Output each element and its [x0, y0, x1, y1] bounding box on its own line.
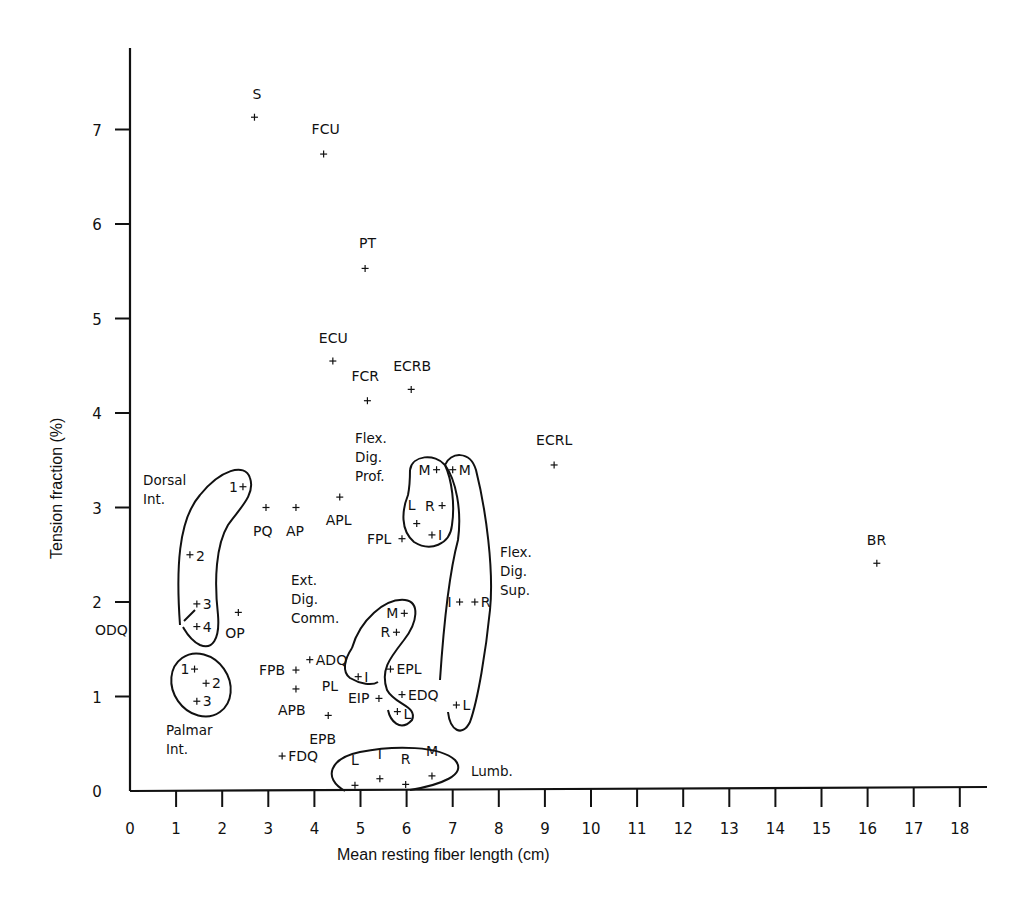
- group-label: Dig.: [500, 563, 527, 579]
- data-point: ODQ: [95, 622, 128, 638]
- group-point-label: R: [380, 624, 390, 640]
- group-label: Ext.: [291, 572, 317, 588]
- x-tick-label: 11: [628, 820, 647, 838]
- data-point-label: EDQ: [408, 687, 439, 703]
- data-point-marker: [292, 685, 299, 692]
- group-label: Sup.: [500, 582, 530, 598]
- data-point-label: ECU: [319, 330, 348, 346]
- data-group: MLRIFlex.Dig.Prof.: [355, 430, 446, 543]
- data-point-label: OP: [225, 625, 244, 641]
- group-point-label: 2: [196, 548, 205, 564]
- data-point: PL: [322, 678, 338, 694]
- group-label: Prof.: [355, 468, 384, 484]
- x-tick-label: 8: [494, 820, 504, 838]
- data-point-marker: [193, 600, 200, 607]
- data-point: PQ: [253, 504, 272, 539]
- data-point-label: ODQ: [95, 622, 128, 638]
- group-point-label: L: [403, 706, 411, 722]
- y-tick-label: 1: [92, 689, 102, 707]
- data-point-marker: [329, 358, 336, 365]
- group-point-label: 1: [181, 661, 190, 677]
- data-point-label: ECRB: [393, 358, 431, 374]
- x-tick-label: 13: [720, 820, 739, 838]
- y-tick-label: 5: [92, 311, 102, 329]
- data-point-marker: [376, 775, 383, 782]
- data-point-label: APL: [326, 512, 352, 528]
- data-point: S: [251, 86, 262, 121]
- data-point-label: EPL: [396, 661, 421, 677]
- data-point-marker: [375, 695, 382, 702]
- group-point-label: M: [419, 462, 431, 478]
- group-label: Dig.: [355, 449, 382, 465]
- group-point-label: 2: [212, 675, 221, 691]
- data-point: EDQ: [398, 687, 438, 703]
- data-point-label: PT: [359, 235, 376, 251]
- y-tick-label: 0: [92, 783, 102, 801]
- data-point-marker: [873, 560, 880, 567]
- data-point-label: ADQ: [316, 652, 347, 668]
- data-point: EPL: [387, 661, 422, 677]
- palmar-int-enclosure: [159, 642, 243, 728]
- data-points: SFCUPTECUFCRECRBECRLBRAPLPQAPFPLOPFPBADQ…: [95, 86, 886, 764]
- data-point: ECRL: [536, 432, 572, 469]
- data-point-marker: [262, 504, 269, 511]
- data-point-marker: [355, 673, 362, 680]
- data-point-label: FPL: [367, 531, 391, 547]
- data-point-label: APB: [278, 702, 306, 718]
- data-point-marker: [336, 494, 343, 501]
- x-tick-label: 2: [217, 820, 227, 838]
- data-point-marker: [428, 772, 435, 779]
- group-point-label: I: [364, 669, 368, 685]
- data-point: ADQ: [306, 652, 347, 668]
- group-point-label: 3: [203, 596, 212, 612]
- data-point: AP: [286, 504, 304, 539]
- data-point: EIP: [348, 690, 383, 706]
- data-point: BR: [867, 532, 887, 567]
- data-point: OP: [225, 609, 244, 642]
- x-tick-label: 15: [812, 820, 831, 838]
- data-group: 123PalmarInt.: [166, 661, 221, 757]
- data-point-marker: [320, 151, 327, 158]
- data-point: APB: [278, 685, 306, 718]
- data-point-marker: [408, 386, 415, 393]
- data-point-marker: [203, 680, 210, 687]
- data-point: EPB: [309, 712, 336, 748]
- data-point-label: AP: [286, 523, 304, 539]
- data-point-marker: [428, 531, 435, 538]
- data-point-label: FPB: [259, 662, 285, 678]
- data-point-marker: [364, 397, 371, 404]
- data-point-marker: [453, 702, 460, 709]
- odq-arrow: [184, 610, 195, 621]
- data-point-label: FCR: [351, 368, 379, 384]
- group-label: Flex.: [500, 544, 532, 560]
- group-point-label: M: [459, 462, 471, 478]
- group-label: Dorsal: [143, 472, 186, 488]
- data-point-marker: [362, 265, 369, 272]
- x-tick-label: 18: [950, 820, 969, 838]
- x-tick-label: 10: [581, 820, 600, 838]
- data-point: FCR: [351, 368, 379, 405]
- data-point-marker: [398, 691, 405, 698]
- data-point-marker: [413, 520, 420, 527]
- group-label: Flex.: [355, 430, 387, 446]
- x-axis-ticks: 0123456789101112131415161718: [125, 787, 969, 838]
- y-tick-label: 6: [92, 216, 102, 234]
- group-point-label: 4: [203, 619, 212, 635]
- data-point-marker: [193, 623, 200, 630]
- data-point: PT: [359, 235, 376, 272]
- data-point-marker: [251, 114, 258, 121]
- group-point-label: R: [401, 751, 411, 767]
- data-point-label: PQ: [253, 523, 272, 539]
- x-tick-label: 9: [540, 820, 550, 838]
- data-point-label: FCU: [312, 121, 340, 137]
- data-point-marker: [402, 781, 409, 788]
- group-point-label: R: [481, 594, 491, 610]
- data-point-label: PL: [322, 678, 338, 694]
- data-point-marker: [279, 753, 286, 760]
- data-point-marker: [191, 666, 198, 673]
- data-point-label: EPB: [309, 731, 336, 747]
- group-point-label: L: [351, 752, 359, 768]
- data-point-label: S: [252, 86, 261, 102]
- y-tick-label: 3: [92, 500, 102, 518]
- data-point-marker: [394, 708, 401, 715]
